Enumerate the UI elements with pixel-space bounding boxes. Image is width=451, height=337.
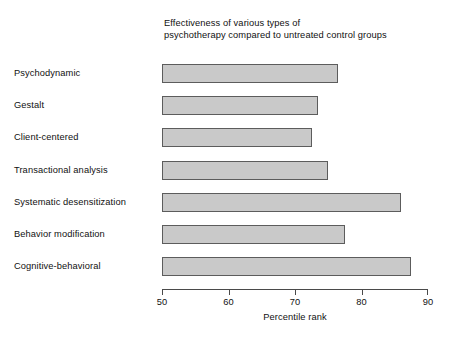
bar [162, 193, 401, 212]
category-label: Cognitive-behavioral [14, 261, 159, 272]
x-axis-tick-label: 60 [223, 297, 233, 308]
bar [162, 96, 318, 115]
x-axis-tick [427, 289, 428, 295]
category-label: Behavior modification [14, 229, 159, 240]
x-axis-tick [362, 289, 363, 295]
bar-row: Cognitive-behavioral [0, 257, 451, 277]
category-label-slot: Transactional analysis [14, 165, 159, 177]
bar-row: Gestalt [0, 96, 451, 116]
bar-row: Behavior modification [0, 225, 451, 245]
plot-area: PsychodynamicGestaltClient-centeredTrans… [0, 0, 451, 337]
bar-row: Transactional analysis [0, 161, 451, 181]
bar-row: Psychodynamic [0, 64, 451, 84]
bar [162, 257, 411, 276]
x-axis-tick [295, 289, 296, 295]
bar-row: Systematic desensitization [0, 193, 451, 213]
x-axis-title: Percentile rank [162, 312, 428, 323]
bar-row: Client-centered [0, 128, 451, 148]
category-label: Transactional analysis [14, 165, 159, 176]
x-axis-tick [229, 289, 230, 295]
x-axis-tick [162, 289, 163, 295]
x-axis-tick-label: 80 [356, 297, 366, 308]
bar-chart-figure: Effectiveness of various types of psycho… [0, 0, 451, 337]
category-label-slot: Behavior modification [14, 229, 159, 241]
bar [162, 225, 345, 244]
bar [162, 64, 338, 83]
category-label-slot: Client-centered [14, 132, 159, 144]
category-label-slot: Cognitive-behavioral [14, 261, 159, 273]
category-label: Client-centered [14, 132, 159, 143]
x-axis-tick-label: 50 [157, 297, 167, 308]
bar [162, 161, 328, 180]
category-label-slot: Psychodynamic [14, 68, 159, 80]
x-axis-tick-label: 70 [290, 297, 300, 308]
category-label-slot: Gestalt [14, 100, 159, 112]
category-label: Gestalt [14, 100, 159, 111]
category-label: Systematic desensitization [14, 197, 159, 208]
bar [162, 128, 312, 147]
category-label-slot: Systematic desensitization [14, 197, 159, 209]
category-label: Psychodynamic [14, 68, 159, 79]
x-axis-tick-label: 90 [423, 297, 433, 308]
